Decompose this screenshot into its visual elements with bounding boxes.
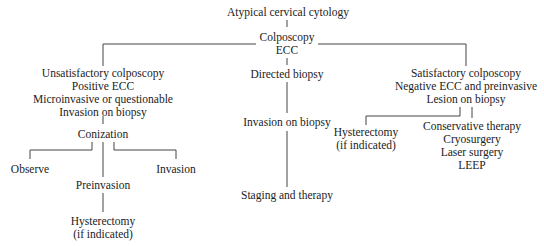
conization-node: Conization — [63, 128, 143, 141]
criteria-line: Negative ECC and preinvasive — [391, 80, 541, 93]
colposcopy-node: Colposcopy ECC — [247, 31, 327, 57]
if-indicated-label: (if indicated) — [58, 228, 148, 241]
preinvasion-node: Preinvasion — [63, 179, 143, 192]
criteria-line: Lesion on biopsy — [391, 93, 541, 106]
left-criteria-node: Unsatisfactory colposcopy Positive ECC M… — [18, 67, 188, 119]
conservative-therapy-node: Conservative therapy Cryosurgery Laser s… — [422, 120, 522, 172]
root-node: Atypical cervical cytology — [227, 6, 347, 19]
preinvasion-label: Preinvasion — [63, 179, 143, 192]
conservative-label: Conservative therapy — [422, 120, 522, 133]
hysterectomy-label: Hysterectomy — [326, 126, 406, 139]
directed-biopsy-node: Directed biopsy — [237, 68, 337, 81]
cryosurgery-label: Cryosurgery — [422, 133, 522, 146]
hysterectomy-label: Hysterectomy — [58, 215, 148, 228]
right-hysterectomy-node: Hysterectomy (if indicated) — [326, 126, 406, 152]
invasion-label: Invasion — [146, 163, 206, 176]
root-label: Atypical cervical cytology — [227, 6, 347, 19]
criteria-line: Unsatisfactory colposcopy — [18, 67, 188, 80]
invasion-node: Invasion — [146, 163, 206, 176]
if-indicated-label: (if indicated) — [326, 139, 406, 152]
colposcopy-label: Colposcopy — [247, 31, 327, 44]
criteria-line: Satisfactory colposcopy — [391, 67, 541, 80]
laser-surgery-label: Laser surgery — [422, 146, 522, 159]
staging-node: Staging and therapy — [232, 189, 342, 202]
directed-biopsy-label: Directed biopsy — [237, 68, 337, 81]
observe-label: Observe — [0, 163, 60, 176]
criteria-line: Positive ECC — [18, 80, 188, 93]
left-hysterectomy-node: Hysterectomy (if indicated) — [58, 215, 148, 241]
criteria-line: Invasion on biopsy — [18, 106, 188, 119]
criteria-line: Microinvasive or questionable — [18, 93, 188, 106]
conization-label: Conization — [63, 128, 143, 141]
ecc-label: ECC — [247, 44, 327, 57]
right-criteria-node: Satisfactory colposcopy Negative ECC and… — [391, 67, 541, 106]
observe-node: Observe — [0, 163, 60, 176]
leep-label: LEEP — [422, 159, 522, 172]
staging-label: Staging and therapy — [232, 189, 342, 202]
